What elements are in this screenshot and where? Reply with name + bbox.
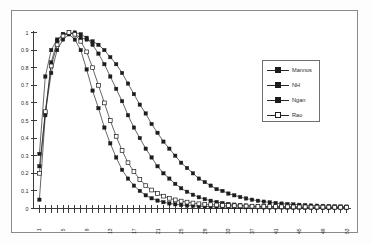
data-point-marker xyxy=(120,149,124,153)
data-point-marker xyxy=(103,126,106,129)
data-point-marker xyxy=(197,202,201,206)
data-point-marker xyxy=(97,83,101,87)
data-point-marker xyxy=(226,204,230,208)
legend-item-3[interactable]: Rao xyxy=(267,110,302,120)
data-point-marker xyxy=(203,180,206,183)
data-point-marker xyxy=(286,205,290,209)
data-point-marker xyxy=(232,204,236,208)
legend-swatch-filled-square-icon xyxy=(267,95,289,105)
data-point-marker xyxy=(244,204,248,208)
data-point-marker xyxy=(44,75,47,78)
data-point-marker xyxy=(150,156,153,159)
data-point-marker xyxy=(339,205,343,209)
data-point-marker xyxy=(209,203,213,207)
data-point-marker xyxy=(203,202,207,206)
legend-item-label: NH xyxy=(292,82,300,88)
y-tick-label: 0.8 xyxy=(21,65,29,71)
data-point-marker xyxy=(221,203,225,207)
data-point-marker xyxy=(144,194,147,197)
data-point-marker xyxy=(120,168,123,171)
legend: Mannos NH Ngan Rao xyxy=(262,60,320,122)
data-point-marker xyxy=(79,33,82,36)
data-point-marker xyxy=(274,201,277,204)
y-tick-label: 0.2 xyxy=(21,170,29,176)
y-tick-label: 1 xyxy=(26,30,29,36)
legend-item-label: Ngan xyxy=(292,97,305,103)
y-tick-label: 0.5 xyxy=(21,118,29,124)
data-point-marker xyxy=(103,62,106,65)
data-point-marker xyxy=(262,204,266,208)
data-point-marker xyxy=(97,43,100,46)
data-point-marker xyxy=(244,197,247,200)
data-point-marker xyxy=(333,205,337,209)
data-point-marker xyxy=(179,203,182,206)
data-point-marker xyxy=(67,31,71,35)
data-point-marker xyxy=(97,106,100,109)
data-point-marker xyxy=(179,161,182,164)
data-point-marker xyxy=(132,170,136,174)
y-tick-label: 0.1 xyxy=(21,188,29,194)
legend-item-label: Mannos xyxy=(292,67,312,73)
data-point-marker xyxy=(203,197,206,200)
x-tick-label: 13 xyxy=(107,228,113,234)
data-point-marker xyxy=(179,199,183,203)
data-point-marker xyxy=(49,64,53,68)
data-point-marker xyxy=(321,205,325,209)
y-tick-label: 0 xyxy=(26,206,29,212)
data-point-marker xyxy=(79,48,82,51)
data-point-marker xyxy=(174,203,177,206)
data-point-marker xyxy=(114,156,117,159)
data-point-marker xyxy=(221,189,224,192)
data-point-marker xyxy=(162,140,165,143)
data-point-marker xyxy=(209,184,212,187)
data-point-marker xyxy=(174,182,177,185)
x-tick-label: 45 xyxy=(296,228,302,234)
data-point-marker xyxy=(102,101,106,105)
data-point-marker xyxy=(85,50,89,54)
chart-svg: 00.10.20.30.40.50.60.70.80.91 1591317212… xyxy=(0,0,372,244)
data-point-marker xyxy=(233,194,236,197)
y-tick-label: 0.3 xyxy=(21,153,29,159)
data-point-marker xyxy=(238,204,242,208)
x-tick-label: 1 xyxy=(36,228,42,231)
data-point-marker xyxy=(274,205,278,209)
legend-swatch-filled-square-icon xyxy=(267,65,289,75)
data-point-marker xyxy=(85,68,88,71)
data-point-marker xyxy=(280,205,284,209)
x-tick-label: 53 xyxy=(344,228,350,234)
data-point-marker xyxy=(262,200,265,203)
x-tick-label: 41 xyxy=(273,228,279,234)
data-point-marker xyxy=(114,62,117,65)
data-point-marker xyxy=(114,87,117,90)
data-point-marker xyxy=(256,199,259,202)
data-point-marker xyxy=(50,48,53,51)
legend-item-0[interactable]: Mannos xyxy=(267,65,312,75)
data-point-marker xyxy=(109,142,112,145)
x-tick-label: 33 xyxy=(225,228,231,234)
data-point-marker xyxy=(126,114,129,117)
data-point-marker xyxy=(85,36,88,39)
data-point-marker xyxy=(162,200,165,203)
data-point-marker xyxy=(150,197,153,200)
data-point-marker xyxy=(91,66,95,70)
chart-screenshot: 00.10.20.30.40.50.60.70.80.91 1591317212… xyxy=(0,0,372,244)
data-point-marker xyxy=(138,178,142,182)
data-point-marker xyxy=(138,136,141,139)
legend-swatch-open-square-icon xyxy=(267,110,289,120)
data-point-marker xyxy=(109,55,112,58)
data-point-marker xyxy=(268,201,271,204)
data-point-marker xyxy=(79,39,83,43)
legend-item-2[interactable]: Ngan xyxy=(267,95,305,105)
data-point-marker xyxy=(297,205,301,209)
data-point-marker xyxy=(126,82,129,85)
data-point-marker xyxy=(109,75,112,78)
y-tick-label: 0.4 xyxy=(21,135,29,141)
x-tick-label: 21 xyxy=(155,228,161,234)
legend-item-label: Rao xyxy=(292,112,302,118)
data-point-marker xyxy=(126,177,129,180)
data-point-marker xyxy=(144,147,147,150)
x-tick-label: 49 xyxy=(320,228,326,234)
legend-item-1[interactable]: NH xyxy=(267,80,300,90)
data-point-marker xyxy=(55,43,59,47)
x-tick-label: 5 xyxy=(60,228,66,231)
